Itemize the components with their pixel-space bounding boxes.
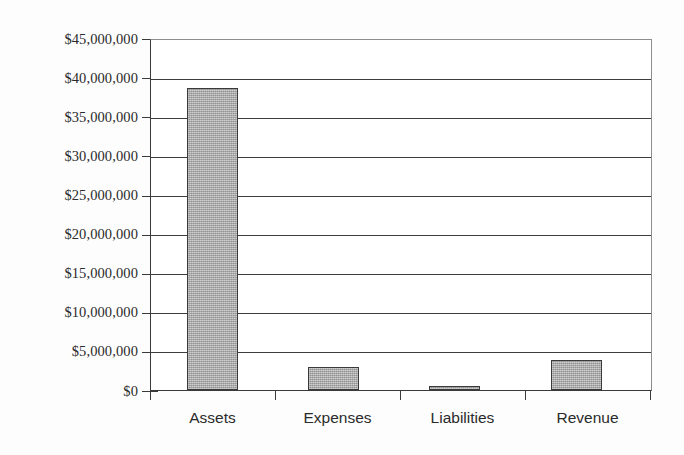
bar-group — [429, 39, 480, 390]
x-axis-tick-label-assets: Assets — [150, 408, 275, 428]
x-axis-tick-label-revenue: Revenue — [525, 408, 650, 428]
y-axis-tick-label: $10,000,000 — [0, 305, 138, 319]
x-axis-tick-mark — [275, 390, 276, 400]
x-axis-tick-label-liabilities: Liabilities — [400, 408, 525, 428]
bar-revenue[interactable] — [551, 360, 602, 390]
y-axis-tick-label: $40,000,000 — [0, 71, 138, 85]
y-axis-tick-label: $0 — [0, 384, 138, 398]
x-axis-tick-mark — [650, 390, 651, 400]
bar-chart-figure: $45,000,000 $40,000,000 $35,000,000 $30,… — [0, 0, 684, 455]
y-axis-tick-label: $45,000,000 — [0, 32, 138, 46]
y-axis-tick-label: $20,000,000 — [0, 227, 138, 241]
x-axis-tick-mark — [400, 390, 401, 400]
bar-liabilities[interactable] — [429, 386, 480, 390]
x-axis-tick-label-expenses: Expenses — [275, 408, 400, 428]
x-axis-tick-mark — [525, 390, 526, 400]
bar-group — [187, 39, 238, 390]
y-axis-tick-label: $5,000,000 — [0, 344, 138, 358]
bar-group — [551, 39, 602, 390]
bar-expenses[interactable] — [308, 367, 359, 390]
plot-area — [150, 39, 652, 391]
y-axis-tick-label: $15,000,000 — [0, 266, 138, 280]
x-axis-tick-label-group: Assets Expenses Liabilities Revenue — [150, 408, 652, 436]
y-axis-tick-label: $35,000,000 — [0, 110, 138, 124]
y-axis-tick-label-group: $45,000,000 $40,000,000 $35,000,000 $30,… — [0, 0, 138, 455]
bars-layer — [151, 40, 651, 390]
bar-group — [308, 39, 359, 390]
bar-assets[interactable] — [187, 88, 238, 390]
y-axis-tick-label: $25,000,000 — [0, 188, 138, 202]
x-axis-tick-mark — [150, 390, 151, 400]
y-axis-tick-label: $30,000,000 — [0, 149, 138, 163]
